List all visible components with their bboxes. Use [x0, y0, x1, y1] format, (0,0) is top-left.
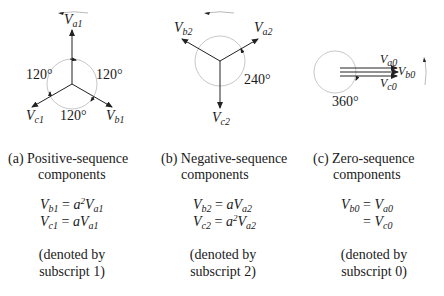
equation: = Vc0: [341, 213, 393, 230]
equations-negative: Vb2 = aVa2 Vc2 = a2Va2: [193, 196, 256, 230]
equations-zero: Vb0 = Va0 = Vc0: [341, 196, 393, 230]
rotation-arc: [206, 12, 234, 13]
equation: Vb1 = a2Va1: [40, 196, 104, 213]
label-va0: Va0: [380, 52, 397, 67]
caption-positive: (a) Positive-sequence components: [8, 151, 128, 183]
angle-label: 120°: [96, 67, 123, 82]
equation: Vc1 = aVa1: [40, 213, 104, 230]
phasor-vb2: [182, 39, 220, 61]
label-vb2: Vb2: [174, 20, 193, 35]
caption-negative: (b) Negative-sequence components: [161, 151, 287, 183]
label-vc1: Vc1: [26, 108, 44, 123]
label-vb0: Vb0: [398, 64, 415, 79]
equation: Vb0 = Va0: [341, 196, 393, 213]
angle-label: 240°: [244, 72, 271, 87]
phasor-va2: [220, 39, 258, 61]
label-vc2: Vc2: [212, 110, 230, 125]
angle-label: 360°: [332, 94, 359, 109]
note-positive: (denoted by subscript 1): [30, 246, 114, 280]
angle-label: 120°: [26, 67, 53, 82]
angle-label: 120°: [60, 108, 87, 123]
rotation-arrow-icon: [423, 57, 426, 62]
note-negative: (denoted by subscript 2): [181, 246, 265, 280]
equations-positive: Vb1 = a2Va1 Vc1 = aVa1: [40, 196, 104, 230]
phasor-vb1: [72, 84, 112, 107]
equation: Vc2 = a2Va2: [193, 213, 256, 230]
rotation-arc: [425, 60, 426, 85]
phasor-vc1: [32, 84, 72, 107]
note-zero: (denoted by subscript 0): [332, 246, 416, 280]
label-vb1: Vb1: [106, 108, 125, 123]
label-vc0: Vc0: [380, 76, 397, 91]
label-va1: Va1: [64, 12, 83, 27]
equation: Vb2 = aVa2: [193, 196, 256, 213]
negative-sequence-diagram: [182, 12, 258, 108]
caption-zero: (c) Zero-sequence components: [313, 151, 414, 183]
label-va2: Va2: [254, 20, 273, 35]
